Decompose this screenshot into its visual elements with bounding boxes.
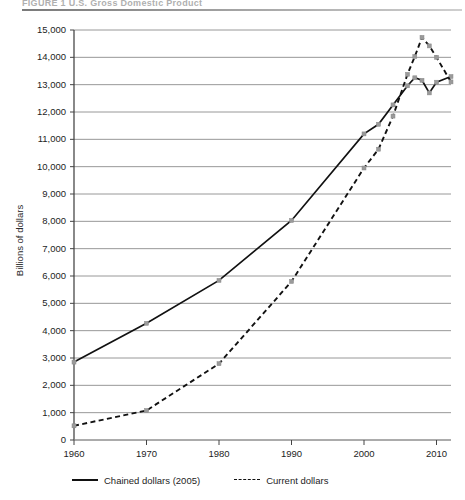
- data-point-marker: [427, 91, 431, 95]
- data-point-marker: [406, 72, 410, 76]
- data-point-marker: [217, 278, 221, 282]
- series-line-2: [74, 37, 451, 425]
- data-point-marker: [72, 360, 76, 364]
- data-point-marker: [377, 122, 381, 126]
- data-point-marker: [420, 35, 424, 39]
- data-point-marker: [290, 280, 294, 284]
- data-point-marker: [72, 424, 76, 428]
- gridlines: [74, 30, 451, 440]
- data-point-marker: [290, 219, 294, 223]
- data-point-marker: [413, 76, 417, 80]
- legend-label: Chained dollars (2005): [104, 475, 200, 486]
- data-point-marker: [413, 55, 417, 59]
- data-point-marker: [145, 321, 149, 325]
- chart-area: Billions of dollars 01,0002,0003,0004,00…: [0, 0, 465, 500]
- data-point-marker: [362, 132, 366, 136]
- plot-svg: [0, 0, 465, 500]
- legend-item-2[interactable]: Current dollars: [234, 475, 328, 486]
- data-point-marker: [145, 409, 149, 413]
- legend-item-1[interactable]: Chained dollars (2005): [72, 475, 200, 486]
- axis-lines: [74, 30, 451, 440]
- series-line-1: [74, 77, 451, 363]
- data-point-marker: [217, 362, 221, 366]
- data-point-marker: [435, 55, 439, 59]
- data-point-marker: [377, 147, 381, 151]
- chart-legend: Chained dollars (2005)Current dollars: [72, 470, 452, 490]
- data-point-marker: [391, 103, 395, 107]
- data-point-marker: [427, 44, 431, 48]
- dashed-line-icon: [234, 476, 260, 484]
- data-series-layer: [72, 35, 453, 427]
- legend-label: Current dollars: [266, 475, 328, 486]
- x-axis-tickmarks: [74, 440, 437, 445]
- data-point-marker: [449, 80, 453, 84]
- data-point-marker: [391, 114, 395, 118]
- data-point-marker: [406, 84, 410, 88]
- data-point-marker: [362, 166, 366, 170]
- data-point-marker: [435, 80, 439, 84]
- data-point-marker: [420, 78, 424, 82]
- solid-line-icon: [72, 476, 98, 484]
